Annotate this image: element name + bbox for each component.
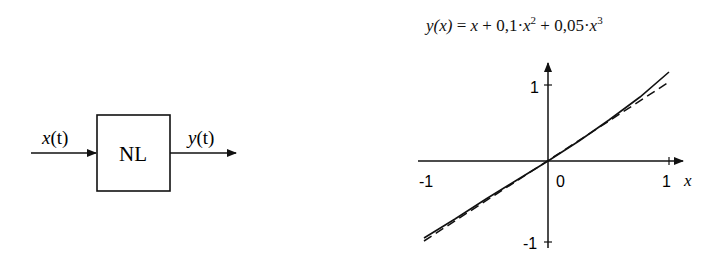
tick-label-y-1: 1 (530, 79, 539, 96)
plot: -1 0 1 x 1 -1 (418, 63, 692, 252)
input-label: x(t) (41, 127, 68, 149)
x-axis-label: x (683, 171, 692, 190)
nonlinear-curve-solid (424, 72, 669, 238)
block-label: NL (119, 142, 147, 166)
figure-canvas: NL x(t) y(t) -1 0 1 x 1 -1 (0, 0, 723, 262)
formula-title: y(x) = x + 0,1·x2 + 0,05·x3 (426, 14, 603, 36)
tick-label-x-1: 1 (662, 173, 671, 190)
tick-label-y-neg1: -1 (523, 235, 537, 252)
tick-label-x-neg1: -1 (419, 173, 433, 190)
block-diagram: NL x(t) y(t) (31, 115, 236, 191)
output-label: y(t) (186, 127, 214, 149)
tick-label-origin: 0 (556, 173, 565, 190)
